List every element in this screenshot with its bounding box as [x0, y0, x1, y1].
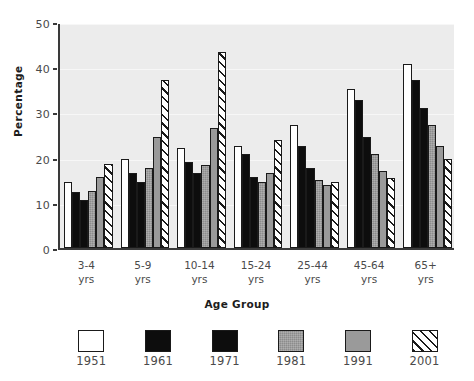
x-tick-label: 45-64yrs	[341, 258, 398, 286]
y-tick-mark	[53, 68, 57, 70]
x-tick-range: 25-44	[284, 258, 341, 272]
bar	[145, 168, 153, 248]
bar	[306, 168, 314, 248]
bar	[80, 200, 88, 248]
bar	[444, 159, 452, 248]
bar	[96, 177, 104, 248]
y-tick-mark	[53, 113, 57, 115]
legend-item[interactable]: 1971	[197, 330, 253, 368]
x-tick-unit: yrs	[341, 272, 398, 286]
x-tick-label: 10-14yrs	[171, 258, 228, 286]
y-tick-mark	[53, 249, 57, 251]
bar	[266, 173, 274, 248]
bar	[436, 146, 444, 248]
plot-area	[58, 24, 454, 250]
x-tick-range: 3-4	[58, 258, 115, 272]
x-tick-unit: yrs	[228, 272, 285, 286]
bar	[258, 182, 266, 248]
bar-chart: Percentage 01020304050 3-4yrs5-9yrs10-14…	[0, 0, 474, 381]
gray-swatch	[345, 330, 371, 352]
bar	[104, 164, 112, 248]
x-tick-unit: yrs	[115, 272, 172, 286]
x-tick-range: 65+	[397, 258, 454, 272]
x-tick-label: 25-44yrs	[284, 258, 341, 286]
legend-item[interactable]: 1981	[263, 330, 319, 368]
gray-textured-swatch	[278, 330, 304, 352]
white-swatch	[78, 330, 104, 352]
legend-label: 2001	[410, 354, 440, 368]
bar	[218, 52, 226, 248]
bar	[193, 173, 201, 248]
bar	[185, 162, 193, 248]
x-tick-label: 15-24yrs	[228, 258, 285, 286]
x-tick-unit: yrs	[284, 272, 341, 286]
x-tick-unit: yrs	[58, 272, 115, 286]
y-tick-label: 0	[24, 244, 50, 257]
bar-group	[403, 24, 452, 248]
y-tick-mark	[53, 204, 57, 206]
x-tick-unit: yrs	[397, 272, 454, 286]
bar	[347, 89, 355, 248]
bar-group	[290, 24, 339, 248]
x-tick-unit: yrs	[171, 272, 228, 286]
x-tick-range: 10-14	[171, 258, 228, 272]
legend-item[interactable]: 2001	[397, 330, 453, 368]
bar	[298, 146, 306, 248]
y-tick-mark	[53, 159, 57, 161]
bar	[161, 80, 169, 248]
bar	[137, 182, 145, 248]
y-tick-label: 20	[24, 153, 50, 166]
x-tick-label: 65+yrs	[397, 258, 454, 286]
x-tick-range: 15-24	[228, 258, 285, 272]
y-tick-label: 40	[24, 63, 50, 76]
bar	[242, 154, 250, 248]
bar-group	[64, 24, 113, 248]
legend-label: 1951	[76, 354, 106, 368]
bar	[72, 192, 80, 249]
bar-group	[347, 24, 396, 248]
bar	[177, 148, 185, 248]
bar-group	[121, 24, 170, 248]
bar	[234, 146, 242, 248]
y-tick-label: 10	[24, 198, 50, 211]
x-tick-label: 5-9yrs	[115, 258, 172, 286]
bar	[403, 64, 411, 248]
hatched-swatch	[412, 330, 438, 352]
legend-item[interactable]: 1961	[130, 330, 186, 368]
legend-label: 1961	[143, 354, 173, 368]
bar	[387, 178, 395, 248]
bar-group	[177, 24, 226, 248]
bar	[153, 137, 161, 248]
legend-label: 1971	[210, 354, 240, 368]
bar	[420, 108, 428, 248]
bar	[64, 182, 72, 248]
bar	[363, 137, 371, 248]
legend-label: 1991	[343, 354, 373, 368]
black-swatch	[145, 330, 171, 352]
x-tick-range: 45-64	[341, 258, 398, 272]
bar	[355, 100, 363, 248]
y-tick-label: 30	[24, 108, 50, 121]
bar	[274, 140, 282, 248]
bar	[201, 165, 209, 248]
bar	[250, 177, 258, 248]
bar	[315, 180, 323, 248]
y-axis-title: Percentage	[12, 65, 24, 137]
black-swatch	[212, 330, 238, 352]
bar	[371, 154, 379, 248]
bar	[129, 173, 137, 248]
bar	[428, 125, 436, 248]
bar	[323, 185, 331, 248]
x-tick-label: 3-4yrs	[58, 258, 115, 286]
x-tick-range: 5-9	[115, 258, 172, 272]
bar	[290, 125, 298, 248]
legend-item[interactable]: 1951	[63, 330, 119, 368]
legend: 195119611971198119912001	[58, 330, 458, 368]
bar-group	[234, 24, 283, 248]
legend-item[interactable]: 1991	[330, 330, 386, 368]
legend-label: 1981	[276, 354, 306, 368]
bar	[331, 182, 339, 248]
y-tick-mark	[53, 23, 57, 25]
bar	[412, 80, 420, 248]
bar	[121, 159, 129, 248]
